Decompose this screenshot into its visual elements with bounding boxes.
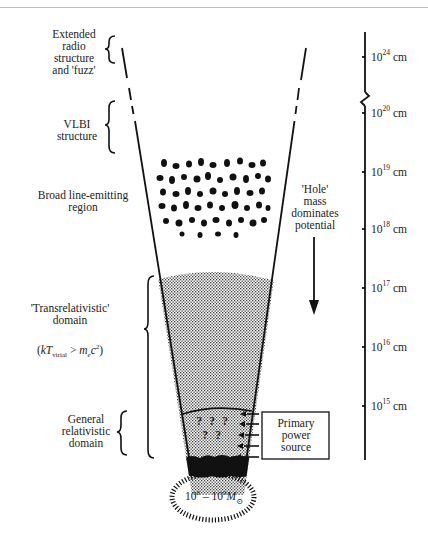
- cone-left-edge: [122, 48, 192, 476]
- mass-base: 10: [212, 490, 224, 502]
- label-transrelativistic: 'Transrelativistic' domain: [20, 302, 120, 326]
- label-line: potential: [290, 219, 340, 231]
- label-line: Primary: [263, 417, 329, 429]
- scale-base: 10: [371, 51, 383, 63]
- power-source-label: Primary power source: [263, 417, 329, 453]
- brace-transrel: [144, 276, 154, 458]
- scale-label-1e17: 1017 cm: [371, 282, 407, 294]
- scale-unit: cm: [390, 341, 407, 353]
- label-line: radio: [44, 40, 104, 52]
- label-line: 'Hole': [290, 183, 340, 195]
- formula-paren: ): [99, 344, 103, 356]
- scale-exp: 15: [383, 397, 391, 406]
- scale-unit: cm: [390, 282, 407, 294]
- scale-axis: [361, 32, 369, 460]
- black-hole-mass-label: 108 – 109M⊙: [176, 490, 252, 502]
- scale-unit: cm: [390, 107, 407, 119]
- label-line: domain: [20, 314, 120, 326]
- scale-base: 10: [371, 282, 383, 294]
- scale-base: 10: [371, 166, 383, 178]
- scale-label-1e15: 1015 cm: [371, 400, 407, 412]
- scale-unit: cm: [390, 51, 407, 63]
- label-broad-line-region: Broad line-emitting region: [28, 189, 138, 213]
- label-extended-radio: Extended radio structure and 'fuzz': [44, 28, 104, 76]
- label-general-relativistic: General relativistic domain: [54, 413, 118, 449]
- scale-exp: 20: [383, 104, 391, 113]
- label-line: structure: [50, 130, 104, 142]
- question-mark: ?: [207, 415, 217, 427]
- braces: [105, 36, 154, 458]
- label-line: and 'fuzz': [44, 64, 104, 76]
- scale-label-1e20: 1020 cm: [371, 107, 407, 119]
- mass-base: 10: [185, 490, 197, 502]
- scale-label-1e18: 1018 cm: [371, 223, 407, 235]
- formula-virial-sub: virial: [52, 351, 67, 359]
- scale-base: 10: [371, 341, 383, 353]
- mass-symbol: M: [227, 490, 237, 502]
- formula-operator: >: [67, 344, 79, 356]
- label-line: 'Transrelativistic': [20, 302, 120, 314]
- scale-base: 10: [371, 400, 383, 412]
- brace-vlbi: [105, 101, 115, 153]
- mass-dash: –: [200, 490, 212, 502]
- agn-diagram: [0, 0, 428, 545]
- brace-gr: [117, 411, 127, 455]
- label-hole-mass: 'Hole' mass dominates potential: [290, 183, 340, 231]
- scale-label-1e24: 1024 cm: [371, 51, 407, 63]
- scale-unit: cm: [390, 400, 407, 412]
- formula-kt: kT: [41, 344, 53, 356]
- label-line: structure: [44, 52, 104, 64]
- scale-exp: 19: [383, 163, 391, 172]
- label-line: Extended: [44, 28, 104, 40]
- scale-base: 10: [371, 223, 383, 235]
- label-line: VLBI: [50, 118, 104, 130]
- scale-exp: 16: [383, 338, 391, 347]
- scale-unit: cm: [390, 223, 407, 235]
- label-line: General: [54, 413, 118, 425]
- scale-label-1e19: 1019 cm: [371, 166, 407, 178]
- question-mark: ?: [194, 415, 204, 427]
- scale-unit: cm: [390, 166, 407, 178]
- scale-exp: 18: [383, 220, 391, 229]
- brace-extended-radio: [105, 36, 115, 63]
- label-line: source: [263, 441, 329, 453]
- solar-mass-icon: ⊙: [236, 497, 243, 506]
- broad-line-clouds: [157, 158, 272, 239]
- label-line: domain: [54, 437, 118, 449]
- question-mark: ?: [200, 429, 210, 441]
- label-line: region: [28, 201, 138, 213]
- label-vlbi: VLBI structure: [50, 118, 104, 142]
- virial-temperature-condition: (kTvirial > mec2): [20, 344, 120, 356]
- question-mark: ?: [220, 415, 230, 427]
- label-line: power: [263, 429, 329, 441]
- label-line: dominates: [290, 207, 340, 219]
- scale-exp: 24: [383, 48, 391, 57]
- scale-exp: 17: [383, 279, 391, 288]
- scale-label-1e16: 1016 cm: [371, 341, 407, 353]
- question-mark: ?: [213, 429, 223, 441]
- label-line: Broad line-emitting: [28, 189, 138, 201]
- scale-base: 10: [371, 107, 383, 119]
- label-line: mass: [290, 195, 340, 207]
- label-line: relativistic: [54, 425, 118, 437]
- formula-m: m: [79, 344, 87, 356]
- down-arrow: [309, 237, 319, 315]
